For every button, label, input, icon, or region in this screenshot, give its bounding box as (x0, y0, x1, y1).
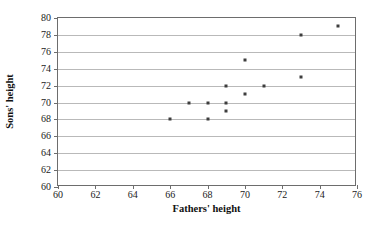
gridline-y-62 (58, 170, 355, 171)
gridline-y-76 (58, 52, 355, 53)
data-point (206, 118, 209, 121)
x-tick-label-70: 70 (240, 190, 250, 200)
y-tick-78 (54, 35, 58, 36)
y-tick-label-62: 62 (29, 165, 51, 175)
x-tick-label-72: 72 (277, 190, 287, 200)
x-tick-label-74: 74 (315, 190, 325, 200)
x-tick-label-68: 68 (203, 190, 213, 200)
gridline-y-64 (58, 153, 355, 154)
gridline-y-78 (58, 35, 355, 36)
data-point (299, 33, 302, 36)
scatter-plot-figure: Sons' height 6062646668707274767880 6062… (0, 0, 373, 225)
y-tick-76 (54, 52, 58, 53)
data-point (337, 25, 340, 28)
y-axis-title: Sons' height (2, 17, 16, 186)
y-tick-74 (54, 69, 58, 70)
x-axis-title: Fathers' height (57, 203, 356, 215)
data-point (225, 109, 228, 112)
data-point (243, 93, 246, 96)
y-tick-66 (54, 136, 58, 137)
y-tick-72 (54, 86, 58, 87)
data-point (169, 118, 172, 121)
gridline-y-66 (58, 136, 355, 137)
gridline-y-72 (58, 86, 355, 87)
y-tick-68 (54, 119, 58, 120)
x-axis-title-label: Fathers' height (173, 203, 241, 214)
data-point (225, 84, 228, 87)
y-tick-label-80: 80 (29, 13, 51, 23)
data-point (187, 101, 190, 104)
y-tick-label-68: 68 (29, 114, 51, 124)
y-axis-title-label: Sons' height (4, 74, 15, 129)
y-tick-70 (54, 103, 58, 104)
data-point (299, 76, 302, 79)
x-tick-label-66: 66 (165, 190, 175, 200)
x-tick-label-76: 76 (352, 190, 362, 200)
y-tick-label-76: 76 (29, 47, 51, 57)
y-tick-label-74: 74 (29, 64, 51, 74)
x-tick-label-64: 64 (128, 190, 138, 200)
data-point (243, 59, 246, 62)
plot-area: 6062646668707274767880 60626466687072747… (57, 17, 356, 186)
y-tick-label-78: 78 (29, 30, 51, 40)
y-tick-label-66: 66 (29, 131, 51, 141)
y-tick-label-70: 70 (29, 98, 51, 108)
gridline-y-74 (58, 69, 355, 70)
data-point (262, 84, 265, 87)
y-tick-80 (54, 18, 58, 19)
y-tick-label-72: 72 (29, 81, 51, 91)
data-point (225, 101, 228, 104)
x-tick-label-60: 60 (53, 190, 63, 200)
y-tick-label-64: 64 (29, 148, 51, 158)
y-tick-62 (54, 170, 58, 171)
data-point (206, 101, 209, 104)
x-tick-label-62: 62 (90, 190, 100, 200)
y-tick-label-60: 60 (29, 182, 51, 192)
y-tick-64 (54, 153, 58, 154)
